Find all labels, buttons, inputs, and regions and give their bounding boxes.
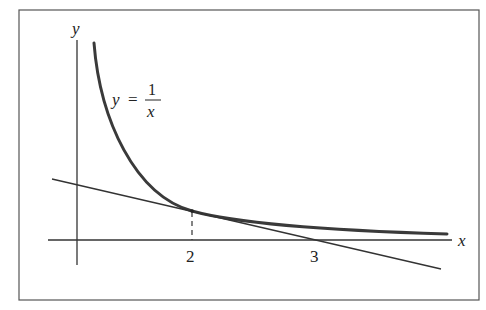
equation-equals: = — [128, 90, 138, 109]
tangent-line — [52, 179, 441, 269]
equation-denominator: x — [146, 102, 155, 121]
figure-frame — [19, 10, 479, 300]
tangent-line-diagram: y x 2 3 y = 1 x — [0, 0, 486, 310]
tick-label-2: 2 — [186, 247, 195, 266]
curve-equation-label: y = 1 x — [110, 81, 161, 121]
tangency-point — [190, 209, 194, 213]
tick-label-3: 3 — [310, 247, 319, 266]
equation-lhs: y — [110, 90, 120, 109]
equation-numerator: 1 — [148, 81, 156, 98]
x-axis-label: x — [457, 231, 466, 250]
y-axis-label: y — [70, 19, 80, 38]
reciprocal-curve — [94, 43, 447, 234]
